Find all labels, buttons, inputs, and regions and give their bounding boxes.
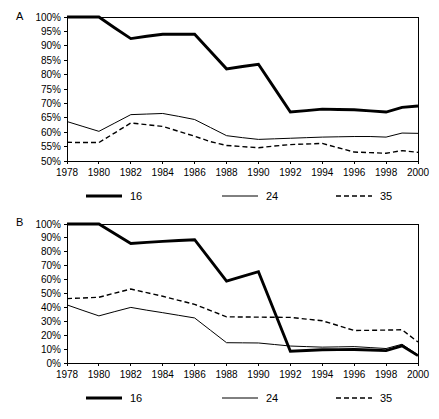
x-axis-tick-label: 1990	[247, 369, 270, 380]
y-axis-tick-label: 50%	[41, 288, 61, 299]
y-axis-tick-label: 95%	[41, 26, 61, 37]
x-axis-tick-label: 1994	[311, 369, 334, 380]
y-axis-tick-label: 90%	[41, 40, 61, 51]
legend-label-35: 35	[380, 392, 392, 404]
chart-panel-b: B 100%90%80%70%60%50%40%30%20%10%0%19781…	[0, 206, 439, 419]
y-axis-tick-label: 0%	[47, 358, 62, 369]
y-axis-tick-label: 75%	[41, 84, 61, 95]
x-axis-tick-label: 1996	[343, 369, 366, 380]
x-axis-tick-label: 1992	[279, 167, 302, 178]
x-axis-tick-label: 1982	[120, 167, 143, 178]
x-axis-tick-label: 1996	[343, 167, 366, 178]
legend-label-16: 16	[130, 392, 142, 404]
x-axis-tick-label: 1990	[247, 167, 270, 178]
figure-root: A 100%95%90%85%80%75%70%65%60%55%50%1978…	[0, 0, 439, 419]
y-axis-tick-label: 60%	[41, 127, 61, 138]
x-axis-tick-label: 1988	[215, 369, 238, 380]
x-axis-tick-label: 1980	[88, 369, 111, 380]
series-line-24	[67, 113, 418, 139]
y-axis-tick-label: 90%	[41, 232, 61, 243]
y-axis-tick-label: 20%	[41, 330, 61, 341]
y-axis-tick-label: 50%	[41, 156, 61, 167]
x-axis-tick-label: 1980	[88, 167, 111, 178]
x-axis-tick-label: 1978	[56, 369, 79, 380]
series-line-16	[67, 224, 418, 356]
line-chart-a: 100%95%90%85%80%75%70%65%60%55%50%197819…	[0, 0, 439, 208]
line-chart-b: 100%90%80%70%60%50%40%30%20%10%0%1978198…	[0, 206, 439, 419]
x-axis-tick-label: 1992	[279, 369, 302, 380]
x-axis-tick-label: 2000	[407, 167, 430, 178]
x-axis-tick-label: 1988	[215, 167, 238, 178]
series-line-35	[67, 289, 418, 342]
chart-panel-a: A 100%95%90%85%80%75%70%65%60%55%50%1978…	[0, 0, 439, 208]
x-axis-tick-label: 1984	[152, 369, 175, 380]
x-axis-tick-label: 1998	[375, 167, 398, 178]
y-axis-tick-label: 70%	[41, 98, 61, 109]
y-axis-tick-label: 40%	[41, 302, 61, 313]
y-axis-tick-label: 10%	[41, 344, 61, 355]
x-axis-tick-label: 1998	[375, 369, 398, 380]
y-axis-tick-label: 55%	[41, 141, 61, 152]
x-axis-tick-label: 1978	[56, 167, 79, 178]
legend-label-24: 24	[266, 392, 278, 404]
y-axis-tick-label: 70%	[41, 260, 61, 271]
y-axis-tick-label: 100%	[35, 219, 61, 230]
y-axis-tick-label: 80%	[41, 246, 61, 257]
x-axis-tick-label: 1982	[120, 369, 143, 380]
y-axis-tick-label: 60%	[41, 274, 61, 285]
x-axis-tick-label: 1994	[311, 167, 334, 178]
y-axis-tick-label: 85%	[41, 55, 61, 66]
x-axis-tick-label: 1986	[184, 369, 207, 380]
y-axis-tick-label: 100%	[35, 12, 61, 23]
x-axis-tick-label: 1984	[152, 167, 175, 178]
series-line-16	[67, 17, 418, 112]
y-axis-tick-label: 80%	[41, 69, 61, 80]
y-axis-tick-label: 65%	[41, 112, 61, 123]
legend-label-24: 24	[266, 190, 278, 202]
y-axis-tick-label: 30%	[41, 316, 61, 327]
legend-label-16: 16	[130, 190, 142, 202]
x-axis-tick-label: 1986	[184, 167, 207, 178]
legend-label-35: 35	[380, 190, 392, 202]
x-axis-tick-label: 2000	[407, 369, 430, 380]
